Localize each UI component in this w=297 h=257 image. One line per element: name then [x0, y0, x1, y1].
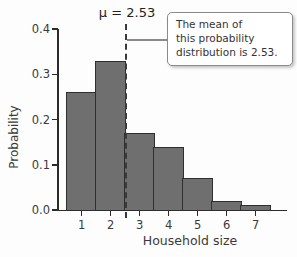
bar-household-size-3	[124, 133, 155, 211]
x-tick-label: 4	[159, 218, 179, 232]
x-tick-label: 5	[188, 218, 208, 232]
y-tick	[52, 28, 58, 30]
y-tick-label: 0.1	[22, 158, 50, 172]
bar-household-size-1	[66, 92, 97, 211]
callout-connector-line	[127, 39, 168, 41]
y-tick	[52, 119, 58, 121]
bar-household-size-4	[153, 147, 184, 211]
x-tick-label: 3	[130, 218, 150, 232]
x-axis-title: Household size	[120, 233, 260, 248]
y-tick	[52, 74, 58, 76]
x-tick-label: 1	[72, 218, 92, 232]
y-axis-title: Probability	[7, 66, 21, 208]
bar-household-size-2	[95, 61, 126, 211]
mean-value-label: μ = 2.53	[77, 5, 177, 20]
callout-line-3: distribution is 2.53.	[176, 45, 284, 59]
y-tick-label: 0.2	[22, 113, 50, 127]
mean-dashed-line	[125, 24, 127, 218]
mean-callout-box: The mean of this probability distributio…	[167, 12, 293, 66]
bar-household-size-6	[211, 201, 242, 211]
y-tick-label: 0.3	[22, 67, 50, 81]
y-tick-label: 0.0	[22, 203, 50, 217]
x-tick-label: 2	[101, 218, 121, 232]
probability-histogram-figure: 0.00.10.20.30.41234567 Probability House…	[0, 0, 297, 257]
y-tick-label: 0.4	[22, 22, 50, 36]
y-tick	[52, 209, 58, 211]
bar-household-size-5	[182, 178, 213, 211]
callout-line-2: this probability	[176, 31, 284, 45]
y-tick	[52, 164, 58, 166]
callout-line-1: The mean of	[176, 17, 284, 31]
bar-household-size-7	[240, 205, 271, 211]
x-tick-label: 7	[246, 218, 266, 232]
x-tick-label: 6	[217, 218, 237, 232]
